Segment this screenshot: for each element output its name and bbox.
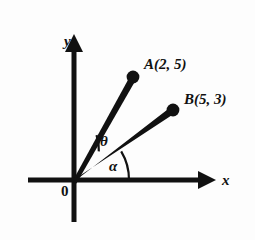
vector-oa [72, 74, 135, 184]
theta-angle-label: θ [100, 134, 108, 149]
x-axis-label: x [222, 173, 230, 188]
vector-diagram-figure: A(2, 5) B(5, 3) y x θ α 0 [0, 0, 255, 240]
point-a-label: A(2, 5) [144, 57, 187, 72]
alpha-arc [121, 151, 129, 180]
point-b-dot [167, 104, 180, 117]
point-b-label: B(5, 3) [184, 92, 227, 107]
x-axis-arrowhead [198, 171, 216, 189]
alpha-angle-label: α [109, 159, 117, 174]
diagram-canvas [0, 0, 255, 240]
vector-ob [73, 107, 175, 182]
origin-label: 0 [61, 184, 69, 199]
y-axis-label: y [64, 34, 71, 49]
point-a-dot [127, 71, 140, 84]
